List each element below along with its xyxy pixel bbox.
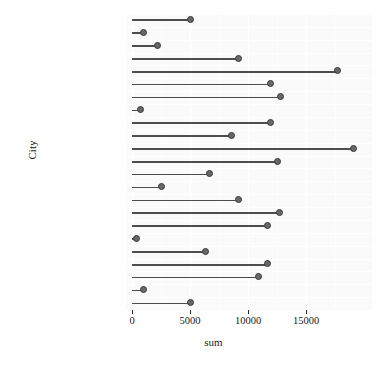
gridline-horizontal xyxy=(126,207,372,208)
x-axis-tick-label: 15000 xyxy=(276,315,336,326)
lollipop-stem xyxy=(132,303,190,305)
x-axis-tick-mark xyxy=(190,310,191,314)
lollipop-stem xyxy=(132,97,280,99)
gridline-horizontal xyxy=(126,40,372,41)
lollipop-dot xyxy=(158,183,165,190)
lollipop-dot xyxy=(187,16,194,23)
lollipop-dot xyxy=(267,80,274,87)
gridline-vertical xyxy=(306,14,307,310)
x-axis-tick-mark xyxy=(132,310,133,314)
lollipop-stem xyxy=(132,251,205,253)
x-axis-tick-mark xyxy=(306,310,307,314)
gridline-horizontal xyxy=(126,233,372,234)
lollipop-dot xyxy=(350,145,357,152)
gridline-horizontal xyxy=(126,130,372,131)
lollipop-stem xyxy=(132,212,279,214)
gridline-horizontal xyxy=(126,246,372,247)
lollipop-stem xyxy=(132,19,190,21)
lollipop-stem xyxy=(132,161,277,163)
lollipop-stem xyxy=(132,122,270,124)
lollipop-dot xyxy=(154,42,161,49)
lollipop-dot xyxy=(187,299,194,306)
gridline-horizontal xyxy=(126,53,372,54)
gridline-horizontal xyxy=(126,220,372,221)
x-axis-tick-mark xyxy=(248,310,249,314)
gridline-horizontal xyxy=(126,78,372,79)
lollipop-dot xyxy=(202,248,209,255)
lollipop-stem xyxy=(132,148,354,150)
gridline-horizontal xyxy=(126,156,372,157)
lollipop-dot xyxy=(140,29,147,36)
x-axis-tick-label: 0 xyxy=(102,315,162,326)
gridline-horizontal xyxy=(126,271,372,272)
gridline-horizontal xyxy=(126,297,372,298)
gridline-horizontal xyxy=(126,91,372,92)
lollipop-stem xyxy=(132,135,232,137)
lollipop-dot xyxy=(228,132,235,139)
lollipop-dot xyxy=(235,55,242,62)
gridline-horizontal xyxy=(126,143,372,144)
lollipop-dot xyxy=(267,119,274,126)
lollipop-stem xyxy=(132,58,239,60)
x-axis-tick-label: 5000 xyxy=(160,315,220,326)
lollipop-stem xyxy=(132,264,268,266)
lollipop-stem xyxy=(132,200,239,202)
lollipop-stem xyxy=(132,84,270,86)
gridline-horizontal xyxy=(126,284,372,285)
x-axis-title-text: sum xyxy=(204,336,222,348)
gridline-horizontal xyxy=(126,181,372,182)
gridline-horizontal xyxy=(126,104,372,105)
lollipop-stem xyxy=(132,225,268,227)
lollipop-stem xyxy=(132,277,258,279)
lollipop-dot xyxy=(133,235,140,242)
x-axis-tick-label: 10000 xyxy=(218,315,278,326)
lollipop-stem xyxy=(132,187,161,189)
lollipop-stem xyxy=(132,71,337,73)
lollipop-dot xyxy=(274,158,281,165)
gridline-horizontal xyxy=(126,14,372,15)
x-axis-title: sum xyxy=(0,336,379,348)
gridline-horizontal xyxy=(126,117,372,118)
lollipop-dot xyxy=(276,209,283,216)
gridline-horizontal xyxy=(126,194,372,195)
gridline-horizontal xyxy=(126,310,372,311)
gridline-vertical-minor xyxy=(335,14,336,310)
gridline-horizontal xyxy=(126,259,372,260)
lollipop-chart: City Yakima -Walla Walla -Victoria -Vanc… xyxy=(0,0,379,366)
lollipop-dot xyxy=(137,106,144,113)
y-axis-title: City xyxy=(26,120,38,180)
gridline-horizontal xyxy=(126,168,372,169)
gridline-horizontal xyxy=(126,27,372,28)
lollipop-stem xyxy=(132,174,210,176)
gridline-horizontal xyxy=(126,65,372,66)
